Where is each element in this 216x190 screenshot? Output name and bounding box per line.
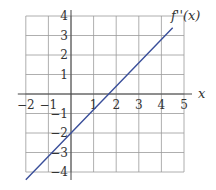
x-tick-label: −2: [17, 98, 35, 112]
x-tick-label: 5: [180, 98, 188, 112]
x-tick-label: 2: [112, 98, 120, 112]
y-tick-label: −1: [50, 107, 68, 121]
y-tick-label: 4: [60, 9, 68, 23]
x-tick-label: 4: [158, 98, 166, 112]
x-tick-label: 3: [135, 98, 143, 112]
y-tick-label: −4: [50, 165, 68, 179]
chart: −2−1123454321−1−2−3−4 f''(x) x: [0, 0, 216, 190]
curve-label: f''(x): [170, 8, 200, 23]
y-tick-label: 3: [60, 29, 68, 43]
y-tick-label: 1: [60, 68, 68, 82]
y-tick-label: 2: [60, 48, 68, 62]
x-axis-label: x: [198, 86, 206, 101]
